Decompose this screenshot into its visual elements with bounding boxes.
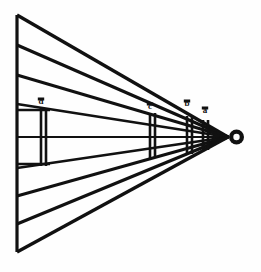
label-a: a: [203, 105, 208, 115]
eye-ring-inner: [233, 134, 239, 140]
figure-canvas: dcba: [0, 0, 261, 272]
label-b: b: [184, 98, 189, 108]
label-c: c: [148, 101, 152, 111]
perspective-figure: dcba: [0, 0, 261, 272]
label-d: d: [38, 96, 43, 106]
